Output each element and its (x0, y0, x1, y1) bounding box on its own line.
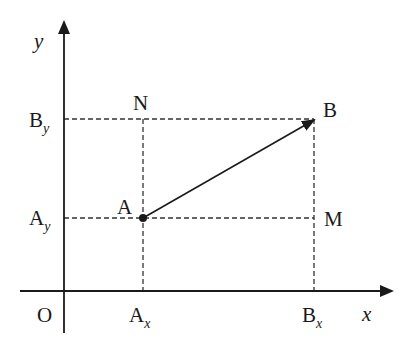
vector-diagram: y x O N B A M By Ay Ax Bx (0, 0, 412, 348)
point-m-label: M (324, 207, 343, 231)
vector-ab (143, 120, 314, 218)
x-axis-label: x (361, 302, 372, 326)
point-a-dot (139, 214, 147, 222)
point-n-label: N (133, 91, 148, 115)
ay-label: Ay (29, 206, 51, 234)
point-b-label: B (323, 98, 337, 122)
bx-label: Bx (302, 303, 323, 331)
y-axis-label: y (32, 29, 44, 53)
ax-label: Ax (129, 303, 151, 331)
projection-lines (64, 119, 314, 291)
point-a-label: A (117, 195, 133, 219)
by-label: By (29, 108, 50, 136)
origin-label: O (37, 303, 52, 327)
